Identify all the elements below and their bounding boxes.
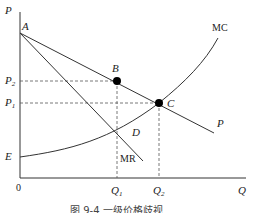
point-c-dot <box>155 99 163 107</box>
q2-label: Q2 <box>153 184 165 198</box>
point-d-label: D <box>131 126 140 138</box>
figure-caption: 图 9-4 一级价格歧视 <box>70 204 163 213</box>
point-b-dot <box>113 77 121 85</box>
origin-label: 0 <box>16 182 21 193</box>
mr-label: MR <box>120 153 136 164</box>
price-discrimination-diagram: P Q 0 A B C D E P MR MC P2 P1 Q1 Q2 图 9-… <box>0 0 253 213</box>
point-e-label: E <box>4 150 12 162</box>
point-c-label: C <box>167 97 175 109</box>
point-a-label: A <box>21 20 29 32</box>
marginal-revenue-curve <box>20 33 143 161</box>
q1-label: Q1 <box>111 184 122 198</box>
point-b-label: B <box>112 62 119 74</box>
x-axis-label: Q <box>238 184 246 196</box>
p1-label: P1 <box>4 96 15 110</box>
y-axis-label: P <box>4 4 12 16</box>
marginal-cost-curve <box>20 38 218 157</box>
mc-label: MC <box>212 22 228 33</box>
demand-label: P <box>216 117 224 129</box>
p2-label: P2 <box>4 74 16 88</box>
